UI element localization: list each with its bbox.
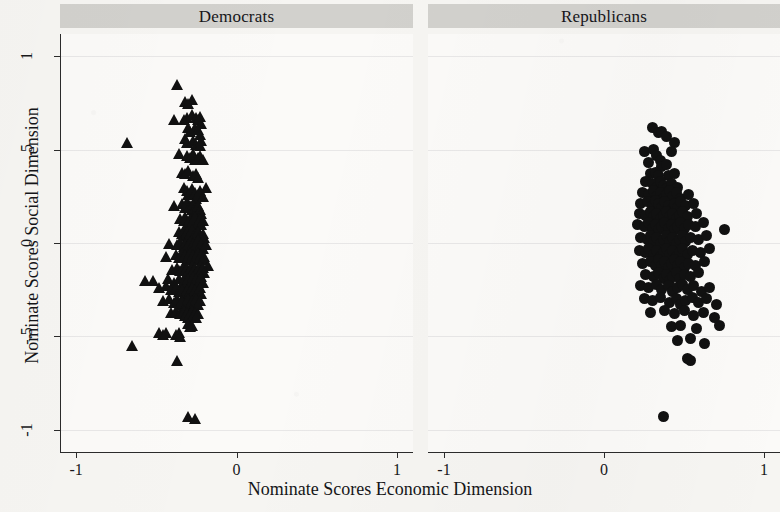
data-point-triangle (139, 275, 151, 286)
plot-panel-democrats (60, 34, 413, 452)
x-tick-label-republicans-2: 1 (739, 462, 780, 478)
data-point-circle (645, 307, 656, 318)
x-tick-label-republicans-0: -1 (419, 462, 469, 478)
data-point-circle (698, 217, 709, 228)
gridline (428, 56, 780, 57)
data-point-circle (685, 355, 696, 366)
y-tick-4 (54, 56, 60, 57)
y-tick-2 (54, 243, 60, 244)
data-point-circle (711, 299, 722, 310)
x-tick-democrats-2 (397, 452, 398, 458)
data-point-circle (658, 411, 669, 422)
data-point-triangle (126, 340, 138, 351)
gridline (60, 336, 413, 337)
x-tick-label-republicans-1: 0 (579, 462, 629, 478)
data-point-circle (693, 267, 704, 278)
data-point-circle (699, 338, 710, 349)
data-point-circle (719, 224, 730, 235)
data-point-circle (672, 335, 683, 346)
data-point-triangle (197, 154, 209, 165)
data-point-circle (704, 243, 715, 254)
gridline (60, 56, 413, 57)
data-point-triangle (195, 135, 207, 146)
scatter-area-republicans (428, 34, 780, 452)
data-point-circle (685, 333, 696, 344)
x-axis-title: Nominate Scores Economic Dimension (0, 479, 780, 500)
panel-title-republicans-label: Republicans (561, 8, 647, 25)
data-point-circle (666, 146, 677, 157)
data-point-triangle (121, 137, 133, 148)
data-point-triangle (189, 413, 201, 424)
data-point-triangle (171, 355, 183, 366)
y-tick-0 (54, 430, 60, 431)
x-tick-republicans-1 (604, 452, 605, 458)
x-tick-republicans-0 (444, 452, 445, 458)
data-point-circle (699, 256, 710, 267)
gridline (60, 150, 413, 151)
y-axis-title: Nominate Scores Social Dimension (22, 36, 43, 436)
plot-panel-republicans (428, 34, 780, 452)
data-point-circle (675, 320, 686, 331)
data-point-circle (704, 282, 715, 293)
x-tick-republicans-2 (764, 452, 765, 458)
gridline (428, 336, 780, 337)
y-tick-3 (54, 150, 60, 151)
x-tick-democrats-0 (76, 452, 77, 458)
y-tick-1 (54, 336, 60, 337)
gridline (60, 430, 413, 431)
data-point-triangle (174, 331, 186, 342)
x-tick-democrats-1 (237, 452, 238, 458)
gridline (428, 150, 780, 151)
y-axis-line (60, 34, 61, 452)
panel-title-republicans: Republicans (428, 4, 780, 28)
data-point-circle (714, 320, 725, 331)
data-point-triangle (171, 79, 183, 90)
data-point-circle (698, 307, 709, 318)
data-point-triangle (197, 215, 209, 226)
x-tick-label-democrats-2: 1 (372, 462, 422, 478)
gridline (428, 243, 780, 244)
nominate-scores-figure: Democrats Republicans -101-101-1-.50.51 … (0, 0, 780, 512)
panel-title-democrats: Democrats (60, 4, 413, 28)
gridline (60, 243, 413, 244)
gridline (428, 430, 780, 431)
x-tick-label-democrats-1: 0 (212, 462, 262, 478)
data-point-triangle (182, 98, 194, 109)
data-point-circle (701, 230, 712, 241)
scatter-area-democrats (60, 34, 413, 452)
x-tick-label-democrats-0: -1 (51, 462, 101, 478)
data-point-triangle (186, 320, 198, 331)
panel-title-democrats-label: Democrats (199, 8, 274, 25)
